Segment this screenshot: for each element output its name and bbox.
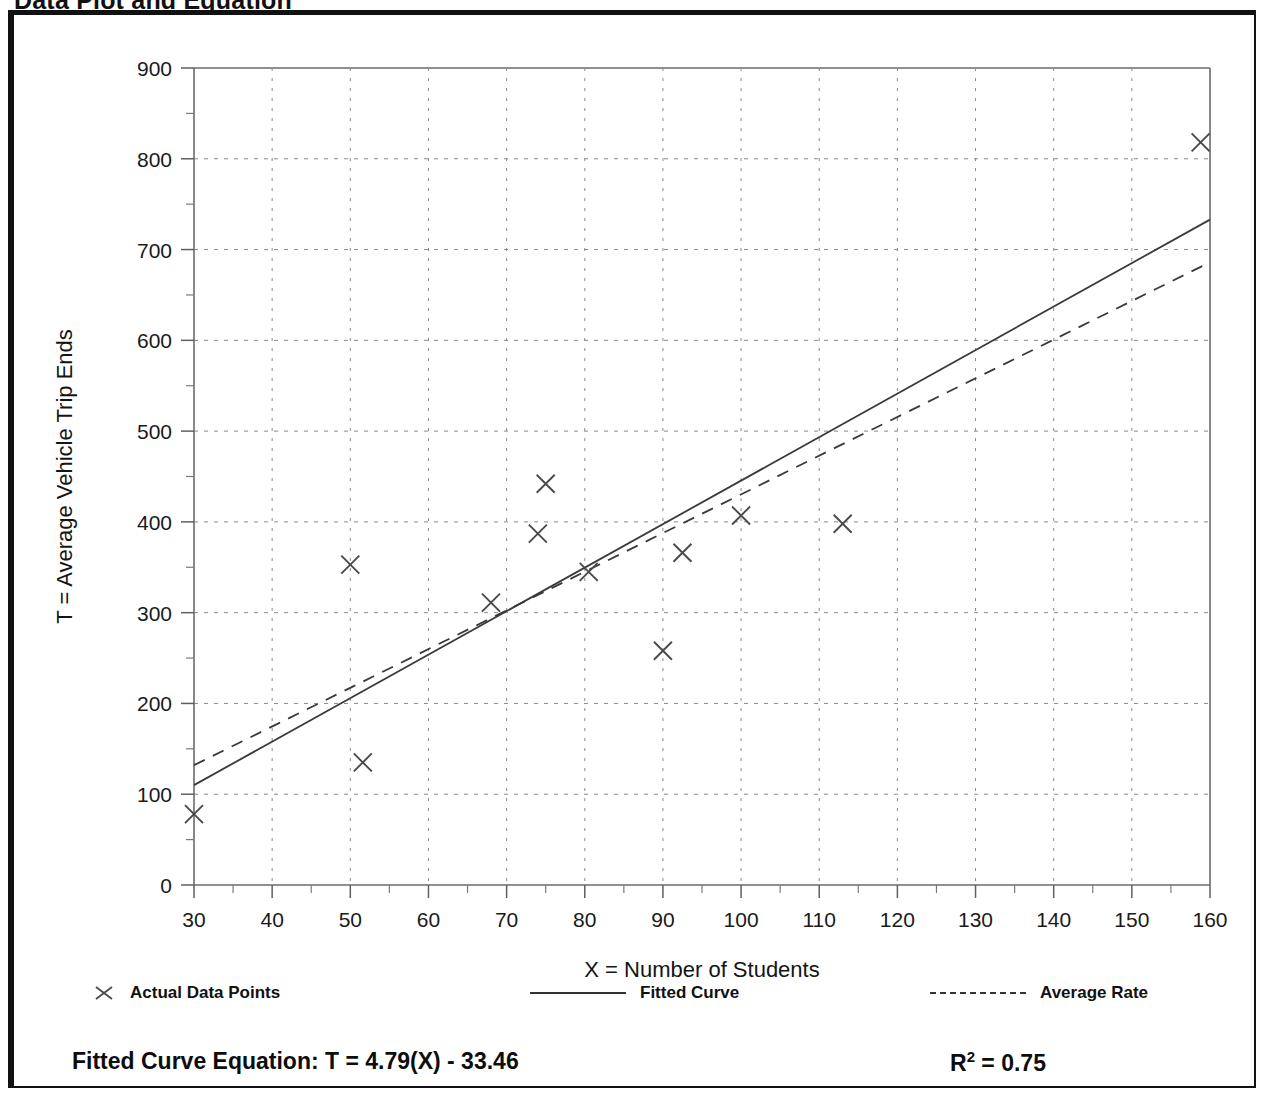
x-tick-label: 140 bbox=[1036, 908, 1071, 931]
y-tick-label: 400 bbox=[137, 511, 172, 534]
y-tick-label: 500 bbox=[137, 420, 172, 443]
dashed-line-icon bbox=[930, 985, 1026, 1001]
data-point-marker bbox=[537, 475, 555, 493]
fitted-curve-equation: Fitted Curve Equation: T = 4.79(X) - 33.… bbox=[72, 1048, 519, 1075]
y-tick-label: 200 bbox=[137, 692, 172, 715]
x-tick-label: 50 bbox=[339, 908, 362, 931]
data-point-marker bbox=[482, 594, 500, 612]
data-point-marker bbox=[529, 525, 547, 543]
chart-frame: 0100200300400500600700800900304050607080… bbox=[8, 10, 1256, 1088]
y-tick-label: 800 bbox=[137, 148, 172, 171]
average-rate-line bbox=[194, 262, 1210, 765]
data-point-marker bbox=[654, 642, 672, 660]
x-tick-label: 70 bbox=[495, 908, 518, 931]
x-tick-label: 90 bbox=[651, 908, 674, 931]
x-tick-label: 110 bbox=[802, 908, 835, 931]
x-tick-label: 40 bbox=[260, 908, 283, 931]
x-tick-label: 100 bbox=[724, 908, 759, 931]
scatter-chart: 0100200300400500600700800900304050607080… bbox=[10, 12, 1258, 1090]
x-marker-icon bbox=[92, 985, 116, 1001]
data-point-marker bbox=[1192, 133, 1210, 151]
equation-row: Fitted Curve Equation: T = 4.79(X) - 33.… bbox=[10, 1044, 1258, 1090]
x-tick-label: 60 bbox=[417, 908, 440, 931]
data-point-marker bbox=[354, 753, 372, 771]
ticks-layer bbox=[181, 68, 1210, 898]
y-tick-label: 100 bbox=[137, 783, 172, 806]
r-squared-number: = 0.75 bbox=[975, 1050, 1046, 1076]
y-axis-title: T = Average Vehicle Trip Ends bbox=[52, 329, 77, 624]
x-tick-label: 150 bbox=[1114, 908, 1149, 931]
data-point-markers bbox=[185, 133, 1210, 823]
y-tick-label: 900 bbox=[137, 57, 172, 80]
legend-label: Actual Data Points bbox=[130, 983, 280, 1003]
legend-label: Fitted Curve bbox=[640, 983, 739, 1003]
y-tick-label: 300 bbox=[137, 602, 172, 625]
x-tick-label: 160 bbox=[1192, 908, 1227, 931]
legend-label: Average Rate bbox=[1040, 983, 1148, 1003]
y-tick-label: 600 bbox=[137, 329, 172, 352]
grid-layer bbox=[194, 68, 1210, 885]
legend-item-average-rate[interactable]: Average Rate bbox=[930, 983, 1148, 1003]
x-tick-label: 30 bbox=[182, 908, 205, 931]
solid-line-icon bbox=[530, 985, 626, 1001]
r-squared-value: R2 = 0.75 bbox=[950, 1048, 1046, 1077]
series-layer bbox=[194, 220, 1210, 786]
x-tick-label: 80 bbox=[573, 908, 596, 931]
legend-item-fitted-curve[interactable]: Fitted Curve bbox=[530, 983, 739, 1003]
axis-tick-labels: 0100200300400500600700800900304050607080… bbox=[137, 57, 1228, 931]
data-point-marker bbox=[673, 544, 691, 562]
legend-item-actual-data-points[interactable]: Actual Data Points bbox=[92, 983, 280, 1003]
y-tick-label: 700 bbox=[137, 239, 172, 262]
r-squared-exponent: 2 bbox=[967, 1048, 975, 1065]
fitted-curve-line bbox=[194, 220, 1210, 786]
chart-legend: Actual Data Points Fitted Curve Average … bbox=[10, 975, 1258, 1021]
data-point-marker bbox=[834, 515, 852, 533]
y-tick-label: 0 bbox=[160, 874, 172, 897]
axes-layer bbox=[194, 68, 1210, 885]
x-tick-label: 120 bbox=[880, 908, 915, 931]
chart-plot-area: 0100200300400500600700800900304050607080… bbox=[10, 12, 1258, 1090]
r-squared-symbol: R bbox=[950, 1050, 967, 1076]
x-tick-label: 130 bbox=[958, 908, 993, 931]
